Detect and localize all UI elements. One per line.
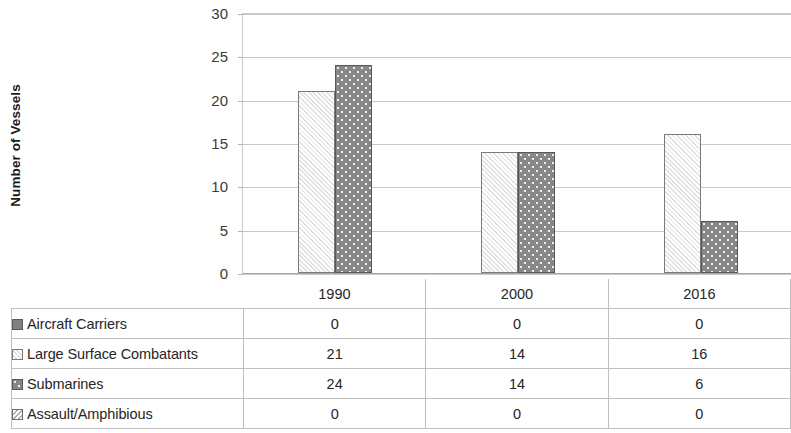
legend-entry-large-surface-combatants: Large Surface Combatants (12, 339, 244, 369)
y-tick-label: 30 (211, 5, 228, 22)
table-cell-2000-assault-amphibious: 0 (426, 399, 608, 429)
legend-label: Large Surface Combatants (27, 346, 198, 362)
y-tick-label: 15 (211, 135, 228, 152)
table-cell-2016-assault-amphibious: 0 (608, 399, 790, 429)
bar-1990-large-surface-combatants (298, 91, 335, 273)
plot-region: 051015202530 (190, 0, 791, 290)
table-row: Assault/Amphibious000 (12, 399, 791, 429)
table-row: Large Surface Combatants211416 (12, 339, 791, 369)
y-axis-title-label: Number of Vessels (8, 84, 23, 207)
gridline (243, 274, 791, 275)
legend-swatch-icon (12, 409, 23, 420)
bar-2016-submarines (701, 221, 738, 273)
legend-entry-assault-amphibious: Assault/Amphibious (12, 399, 244, 429)
y-tick-label: 25 (211, 48, 228, 65)
table-row: Submarines24146 (12, 369, 791, 399)
data-table: 199020002016Aircraft Carriers000Large Su… (11, 279, 791, 429)
legend-swatch-icon (12, 319, 23, 330)
y-axis-tickmark (238, 274, 243, 275)
table-cell-2000-aircraft-carriers: 0 (426, 309, 608, 339)
table-cell-1990-large-surface-combatants: 21 (244, 339, 426, 369)
y-tick-label: 10 (211, 178, 228, 195)
legend-label: Submarines (27, 376, 103, 392)
bar-1990-submarines (335, 65, 372, 273)
bars-layer (243, 14, 791, 274)
x-axis-category-label-2016: 2016 (608, 279, 790, 309)
x-axis-category-label-1990: 1990 (244, 279, 426, 309)
legend-swatch-icon (12, 349, 23, 360)
plot-area (242, 13, 791, 274)
table-cell-1990-assault-amphibious: 0 (244, 399, 426, 429)
legend-label: Assault/Amphibious (27, 406, 153, 422)
chart-data-table: 199020002016Aircraft Carriers000Large Su… (11, 279, 791, 433)
table-cell-2000-submarines: 14 (426, 369, 608, 399)
bar-chart-figure: Number of Vessels 051015202530 199020002… (0, 0, 791, 433)
table-cell-2016-large-surface-combatants: 16 (608, 339, 790, 369)
table-cell-1990-submarines: 24 (244, 369, 426, 399)
legend-entry-aircraft-carriers: Aircraft Carriers (12, 309, 244, 339)
bar-2000-large-surface-combatants (481, 152, 518, 273)
legend-swatch-icon (12, 379, 23, 390)
y-tick-label: 5 (220, 221, 228, 238)
bar-2000-submarines (518, 152, 555, 273)
table-cell-2016-aircraft-carriers: 0 (608, 309, 790, 339)
y-tick-label: 20 (211, 91, 228, 108)
y-axis-title: Number of Vessels (0, 0, 30, 290)
table-cell-2016-submarines: 6 (608, 369, 790, 399)
table-cell-1990-aircraft-carriers: 0 (244, 309, 426, 339)
legend-label: Aircraft Carriers (27, 316, 127, 332)
x-axis-line (243, 273, 791, 274)
table-row: Aircraft Carriers000 (12, 309, 791, 339)
table-cell-2000-large-surface-combatants: 14 (426, 339, 608, 369)
y-axis-tick-labels: 051015202530 (190, 0, 234, 290)
bar-2016-large-surface-combatants (664, 134, 701, 273)
x-axis-category-label-2000: 2000 (426, 279, 608, 309)
legend-entry-submarines: Submarines (12, 369, 244, 399)
table-header-row: 199020002016 (12, 279, 791, 309)
table-corner-blank (12, 279, 244, 309)
